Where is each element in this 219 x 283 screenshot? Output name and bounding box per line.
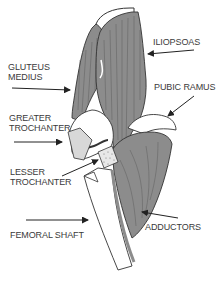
label-gluteus-medius: GLUTEUS MEDIUS — [8, 62, 50, 82]
label-greater-trochanter: GREATER TROCHANTER — [9, 113, 71, 133]
arrow-pubic-ramus — [168, 96, 194, 116]
label-femoral-shaft: FEMORAL SHAFT — [10, 230, 84, 240]
arrow-iliopsoas — [148, 50, 194, 54]
arrow-gluteus-medius — [12, 88, 70, 90]
label-iliopsoas: ILIOPSOAS — [153, 37, 200, 47]
label-adductors: ADDUCTORS — [145, 222, 201, 232]
label-pubic-ramus: PUBIC RAMUS — [154, 82, 215, 92]
label-lesser-trochanter: LESSER TROCHANTER — [10, 167, 72, 187]
